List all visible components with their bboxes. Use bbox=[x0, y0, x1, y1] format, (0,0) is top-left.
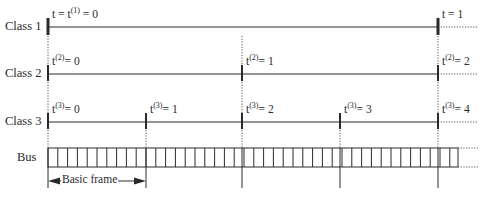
class-superscript: (2) bbox=[55, 53, 64, 62]
arrow-left-icon bbox=[48, 178, 60, 185]
row-label-class2: Class 2 bbox=[5, 66, 41, 81]
class3-time-label: t(3)= 0 bbox=[52, 103, 80, 117]
time-value: = 2 bbox=[259, 103, 274, 115]
timing-diagram bbox=[0, 0, 487, 197]
bus-frame bbox=[48, 148, 458, 167]
time-value: = 3 bbox=[357, 103, 372, 115]
time-symbol: t = 1 bbox=[442, 8, 463, 20]
class-superscript: (2) bbox=[445, 53, 454, 62]
class-superscript: (3) bbox=[347, 101, 356, 110]
class-superscript: (3) bbox=[55, 101, 64, 110]
row-label-class1: Class 1 bbox=[5, 19, 41, 34]
class-superscript: (3) bbox=[445, 101, 454, 110]
class3-time-label: t(3)= 4 bbox=[442, 103, 470, 117]
arrow-right-icon bbox=[134, 178, 146, 185]
class3-time-label: t(3)= 1 bbox=[150, 103, 178, 117]
time-value: = 1 bbox=[163, 103, 178, 115]
time-value: = 1 bbox=[259, 55, 274, 67]
class-superscript: (1) bbox=[71, 6, 80, 15]
class1-time-label: t = 1 bbox=[442, 8, 463, 20]
time-value: = 0 bbox=[65, 55, 80, 67]
class-superscript: (3) bbox=[249, 101, 258, 110]
row-label-bus: Bus bbox=[17, 150, 36, 165]
class3-time-label: t(3)= 2 bbox=[246, 103, 274, 117]
time-value: = 0 bbox=[80, 8, 98, 20]
class-superscript: (3) bbox=[153, 101, 162, 110]
time-value: = 4 bbox=[455, 103, 470, 115]
class2-time-label: t(2)= 2 bbox=[442, 55, 470, 69]
class2-time-label: t(2)= 0 bbox=[52, 55, 80, 69]
time-symbol: t = t bbox=[52, 8, 71, 20]
time-value: = 0 bbox=[65, 103, 80, 115]
basic-frame-label: Basic frame bbox=[61, 173, 118, 185]
time-value: = 2 bbox=[455, 55, 470, 67]
row-label-class3: Class 3 bbox=[5, 114, 41, 129]
class-superscript: (2) bbox=[249, 53, 258, 62]
class2-time-label: t(2)= 1 bbox=[246, 55, 274, 69]
class1-time-label: t = t(1) = 0 bbox=[52, 8, 98, 22]
class3-time-label: t(3)= 3 bbox=[344, 103, 372, 117]
